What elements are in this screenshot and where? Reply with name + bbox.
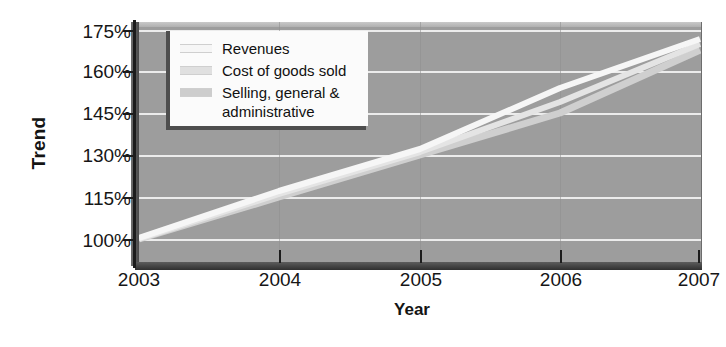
y-tick-mark-100 — [123, 239, 135, 241]
y-tick-mark-175 — [123, 30, 135, 32]
legend-item-cost-of-goods-sold: Cost of goods sold — [180, 59, 360, 81]
legend-swatch-cost-of-goods-sold — [180, 66, 212, 75]
legend-label-continuation: administrative — [180, 103, 360, 121]
x-axis-title: Year — [367, 300, 457, 320]
y-tick-label-115: 115% — [61, 189, 131, 208]
legend-label-revenues: Revenues — [222, 40, 290, 57]
y-tick-mark-130 — [123, 155, 135, 157]
x-tick-label-2007: 2007 — [659, 269, 726, 291]
legend-swatch-selling-general-administrative — [180, 88, 212, 97]
legend-label-cost-of-goods-sold: Cost of goods sold — [222, 62, 346, 79]
y-tick-mark-160 — [123, 71, 135, 73]
y-tick-label-160: 160% — [61, 62, 131, 81]
legend-swatch-revenues — [180, 44, 212, 53]
legend-label-selling-general-administrative: Selling, general & — [222, 84, 340, 101]
x-tick-mark-2005 — [420, 250, 422, 263]
x-tick-label-2004: 2004 — [240, 269, 320, 291]
y-tick-label-175: 175% — [61, 22, 131, 41]
y-axis-line — [133, 20, 136, 268]
y-tick-mark-145 — [123, 113, 135, 115]
x-tick-label-2003: 2003 — [99, 269, 179, 291]
x-tick-label-2006: 2006 — [521, 269, 601, 291]
y-tick-label-145: 145% — [61, 104, 131, 123]
y-axis-tick-labels: 175% 160% 145% 130% 115% 100% — [55, 0, 131, 347]
y-tick-mark-115 — [123, 197, 135, 199]
y-axis-title: Trend — [28, 98, 50, 188]
y-tick-label-100: 100% — [61, 231, 131, 250]
chart-legend: Revenues Cost of goods sold Selling, gen… — [170, 31, 368, 126]
y-tick-label-130: 130% — [61, 146, 131, 165]
x-tick-label-2005: 2005 — [381, 269, 461, 291]
x-tick-mark-2006 — [560, 250, 562, 263]
chart-figure: Trend 175% 160% 145% 130% 115% 100% — [0, 0, 726, 347]
x-tick-mark-2007 — [698, 250, 700, 263]
legend-item-revenues: Revenues — [180, 37, 360, 59]
legend-item-selling-general-administrative: Selling, general & — [180, 81, 360, 103]
x-tick-mark-2004 — [279, 250, 281, 263]
